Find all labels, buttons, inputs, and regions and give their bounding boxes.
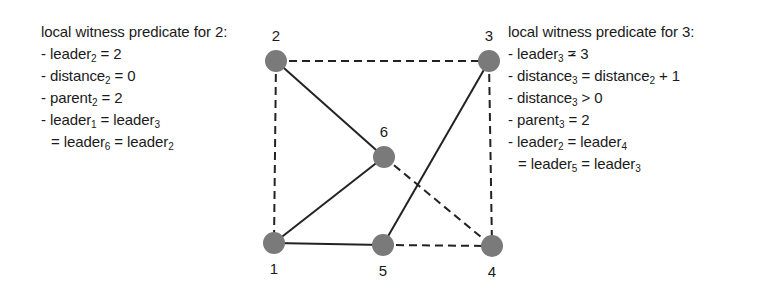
predicate-term: - leader (41, 111, 91, 128)
left-predicate-line: = leader6 = leader2 (41, 131, 227, 153)
predicate-term: = distance (578, 67, 650, 84)
right-predicate-line: - leader2 = leader4 (508, 131, 694, 153)
predicate-value: = 2 (97, 89, 122, 106)
predicate-term: - distance (508, 89, 572, 106)
node-3 (478, 50, 500, 72)
node-label-6: 6 (374, 124, 394, 139)
predicate-value: > 0 (578, 89, 603, 106)
predicate-term: = leader (518, 155, 572, 172)
predicate-term: - distance (508, 67, 572, 84)
predicate-value: + 1 (655, 67, 680, 84)
left-predicate-line: - leader2 = 2 (41, 43, 227, 65)
predicate-term: - leader (508, 133, 558, 150)
predicate-term: = leader (51, 133, 105, 150)
edge-2-1-dashed (274, 61, 276, 243)
subscript: 3 (635, 163, 640, 174)
predicate-value: = 2 (97, 45, 122, 62)
predicate-term: - parent (508, 111, 559, 128)
subscript: 4 (621, 141, 626, 152)
subscript: 3 (154, 119, 159, 130)
predicate-term: = leader (577, 155, 635, 172)
node-label-2: 2 (266, 28, 286, 43)
predicate-term: - leader (508, 45, 558, 62)
right-predicate-lines: - leader3 = 3- distance3 = distance2 + 1… (508, 43, 694, 175)
left-predicate-line: - leader1 = leader3 (41, 109, 227, 131)
right-title: local witness predicate for 3: (508, 21, 694, 43)
left-predicate-line: - distance2 = 0 (41, 65, 227, 87)
right-predicate-line: - distance3 = distance2 + 1 (508, 65, 694, 87)
predicate-term: = leader (110, 133, 168, 150)
node-2 (265, 50, 287, 72)
predicate-term: - leader (41, 45, 91, 62)
edge-6-1-solid (274, 157, 384, 243)
predicate-value: = 2 (564, 111, 589, 128)
right-predicate-line: = leader5 = leader3 (508, 153, 694, 175)
node-label-5: 5 (373, 263, 393, 278)
predicate-term: = leader (97, 111, 155, 128)
right-predicate-line: - distance3 > 0 (508, 87, 694, 109)
edge-6-4-dashed (384, 157, 492, 246)
right-predicate-line: - leader3 = 3 (508, 43, 694, 65)
right-witness-predicate: local witness predicate for 3: - leader3… (508, 21, 694, 175)
edge-1-5-solid (274, 243, 383, 245)
left-predicate-lines: - leader2 = 2- distance2 = 0- parent2 = … (41, 43, 227, 153)
node-1 (263, 232, 285, 254)
node-5 (372, 234, 394, 256)
node-4 (481, 235, 503, 257)
predicate-value: = 0 (111, 67, 136, 84)
predicate-value: 3 (576, 45, 588, 62)
node-label-1: 1 (264, 261, 284, 276)
not-equal-symbol: = (568, 43, 577, 65)
left-witness-predicate: local witness predicate for 2: - leader2… (41, 21, 227, 153)
left-title: local witness predicate for 2: (41, 21, 227, 43)
edge-5-3-solid (383, 61, 489, 245)
node-label-3: 3 (479, 28, 499, 43)
left-predicate-line: - parent2 = 2 (41, 87, 227, 109)
predicate-term: = leader (564, 133, 622, 150)
predicate-term: - parent (41, 89, 92, 106)
right-predicate-line: - parent3 = 2 (508, 109, 694, 131)
predicate-term: - distance (41, 67, 105, 84)
subscript: 3 (558, 53, 563, 64)
edge-3-4-dashed (489, 61, 492, 246)
node-label-4: 4 (482, 264, 502, 279)
edge-2-6-solid (276, 61, 384, 157)
node-6 (373, 146, 395, 168)
edge-5-4-dashed (383, 245, 492, 246)
diagram-canvas: 123456 local witness predicate for 2: - … (0, 0, 758, 296)
subscript: 2 (168, 141, 173, 152)
